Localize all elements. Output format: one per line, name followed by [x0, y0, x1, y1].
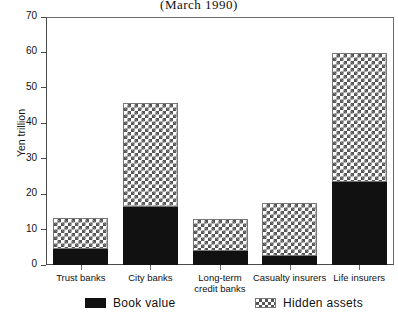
- x-axis-tick: [150, 265, 151, 270]
- bar-segment-book-value: [262, 256, 317, 265]
- y-tick-label: 60: [26, 45, 37, 57]
- x-axis-label: City banks: [112, 272, 190, 283]
- chart-legend: Book valueHidden assets: [0, 296, 398, 314]
- x-axis-tick: [220, 265, 221, 270]
- y-tick-label: 30: [26, 152, 37, 164]
- x-axis-label: Trust banks: [42, 272, 120, 283]
- bar-group: [332, 17, 387, 265]
- bar-group: [262, 17, 317, 265]
- legend-entry[interactable]: Hidden assets: [255, 296, 363, 310]
- bar-segment-book-value: [123, 207, 178, 265]
- bar-segment-book-value: [332, 182, 387, 265]
- cross-hatch-swatch: [255, 298, 276, 308]
- y-tick-label: 40: [26, 116, 37, 128]
- y-tick-label: 50: [26, 81, 37, 93]
- chart-title: (March 1990): [0, 0, 398, 13]
- x-axis-label: Casualty insurers: [251, 272, 329, 283]
- bar-group: [193, 17, 248, 265]
- bar-segment-hidden-assets: [332, 53, 387, 182]
- x-axis-label: Long-term credit banks: [181, 272, 259, 294]
- x-axis-tick: [359, 265, 360, 270]
- y-tick-label: 0: [31, 258, 37, 270]
- bar-segment-hidden-assets: [53, 218, 108, 249]
- legend-entry[interactable]: Book value: [85, 296, 175, 310]
- solid-black-swatch: [85, 298, 106, 308]
- y-tick-label: 10: [26, 223, 37, 235]
- legend-label: Hidden assets: [283, 296, 363, 310]
- bar-segment-book-value: [53, 249, 108, 265]
- y-tick-label: 70: [26, 10, 37, 22]
- bar-segment-hidden-assets: [123, 103, 178, 207]
- x-axis-tick: [81, 265, 82, 270]
- legend-label: Book value: [113, 296, 175, 310]
- bar-segment-book-value: [193, 251, 248, 265]
- bar-segment-hidden-assets: [262, 203, 317, 256]
- x-axis-tick: [290, 265, 291, 270]
- bar-segment-hidden-assets: [193, 219, 248, 251]
- bar-group: [53, 17, 108, 265]
- y-tick-label: 20: [26, 187, 37, 199]
- bar-group: [123, 17, 178, 265]
- stacked-bar-chart: (March 1990) Yen trillion 01020304050607…: [0, 0, 398, 314]
- x-axis-label: Life insurers: [320, 272, 398, 283]
